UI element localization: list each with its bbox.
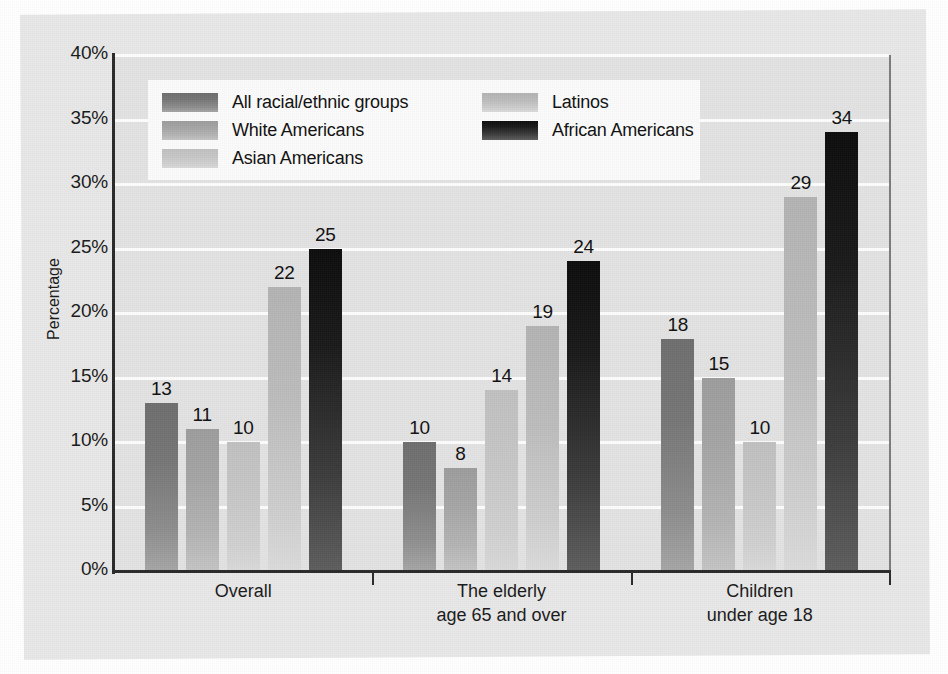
y-axis-title: Percentage [45,199,63,399]
legend-label: Asian Americans [232,148,363,169]
bar-value-label: 15 [709,353,730,375]
bar: 10 [403,442,436,571]
legend-column-right: LatinosAfrican Americans [482,89,697,180]
bar: 34 [825,132,858,571]
legend-item: Latinos [482,89,697,116]
legend-item: All racial/ethnic groups [162,89,472,116]
bar: 15 [702,378,735,572]
legend-item: African Americans [482,117,697,144]
y-tick-label: 40% [38,42,108,64]
legend-label: African Americans [552,120,694,141]
group-separator-tick [372,571,374,585]
bar-value-label: 10 [409,417,430,439]
bar: 25 [309,249,342,572]
bar-value-label: 18 [668,314,689,336]
group-separator-tick [631,571,633,585]
bar: 10 [227,442,260,571]
x-axis-category-label: Childrenunder age 18 [631,580,889,628]
bar-value-label: 24 [573,236,594,258]
legend: All racial/ethnic groupsWhite AmericansA… [148,80,700,180]
bar-chart: 13111022251081419241815102934 0%5%10%15%… [0,0,948,674]
bar: 19 [526,326,559,571]
y-tick-label: 35% [38,107,108,129]
legend-swatch [162,149,218,168]
category-line-1: Overall [215,581,272,601]
y-axis-ticks: 0%5%10%15%20%25%30%35%40% [30,0,108,674]
legend-swatch [162,93,218,112]
bar-value-label: 10 [750,417,771,439]
bar: 8 [444,468,477,571]
bar: 10 [743,442,776,571]
legend-swatch [482,121,538,140]
y-tick-label: 5% [38,494,108,516]
bar-value-label: 34 [832,107,853,129]
bar: 22 [268,287,301,571]
category-line-2: age 65 and over [372,604,630,628]
bar-value-label: 8 [455,443,465,465]
bar-value-label: 25 [315,224,336,246]
bar-value-label: 10 [233,417,254,439]
x-axis-category-label: The elderlyage 65 and over [372,580,630,628]
bar: 24 [567,261,600,571]
legend-label: Latinos [552,92,609,113]
bar-value-label: 11 [193,404,212,426]
legend-column-left: All racial/ethnic groupsWhite AmericansA… [162,89,472,180]
legend-label: All racial/ethnic groups [232,92,408,113]
x-axis-line [112,570,891,573]
y-tick-label: 30% [38,171,108,193]
bar: 29 [784,197,817,571]
legend-item: White Americans [162,117,472,144]
scanned-page: 13111022251081419241815102934 0%5%10%15%… [0,0,948,674]
category-line-1: The elderly [457,581,546,601]
y-tick-label: 10% [38,429,108,451]
bar: 11 [186,429,219,571]
bar: 18 [661,339,694,571]
bar-value-label: 13 [151,378,172,400]
y-tick-label: 0% [38,558,108,580]
legend-swatch [162,121,218,140]
category-line-2: under age 18 [631,604,889,628]
category-line-1: Children [726,581,793,601]
bar: 13 [145,403,178,571]
group-separator-tick [889,571,891,585]
x-axis-category-label: Overall [114,580,372,604]
bar-value-label: 22 [274,262,295,284]
legend-label: White Americans [232,120,364,141]
legend-swatch [482,93,538,112]
bar: 14 [485,390,518,571]
bar-value-label: 19 [532,301,553,323]
bar-value-label: 29 [791,172,812,194]
bar-value-label: 14 [491,365,512,387]
y-axis-line [112,53,115,574]
legend-item: Asian Americans [162,145,472,172]
